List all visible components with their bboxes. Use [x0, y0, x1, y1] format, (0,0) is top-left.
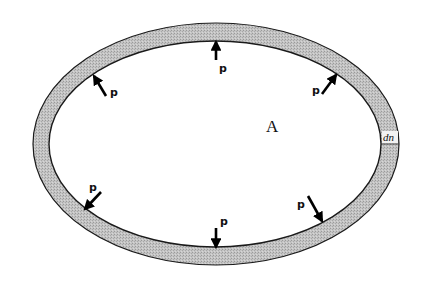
region-label: A	[266, 117, 279, 136]
thickness-label: dn	[383, 131, 395, 143]
elliptical-tube-diagram: dn A pppppp	[0, 0, 425, 284]
pressure-label: p	[220, 215, 228, 228]
pressure-label: p	[110, 86, 118, 99]
pressure-label: p	[219, 62, 227, 75]
pressure-label: p	[297, 198, 305, 211]
pressure-label: p	[89, 181, 97, 194]
inner-area-ellipse	[49, 41, 381, 247]
pressure-label: p	[312, 84, 320, 97]
